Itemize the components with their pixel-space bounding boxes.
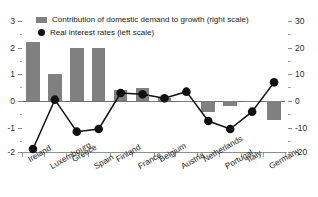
bar-italy [245,101,259,102]
data-point-greece [72,127,81,136]
bar-germany [267,101,281,120]
right-tick-10 [288,74,292,75]
circle-marker-icon [38,29,45,36]
data-point-italy [248,107,257,116]
left-minor-tick-2p5 [20,34,23,35]
x-axis-label-ireland: Ireland [27,144,53,164]
bar-ireland [26,42,40,101]
right-tick-20 [288,48,292,49]
right-tick-30 [288,21,292,22]
right-minor-tick-25 [288,34,291,35]
right-tick-label-20: 20 [295,44,315,53]
x-tick-0 [22,153,23,157]
left-tick-label-0: 0 [1,97,15,106]
left-minor-tick-m1p5 [20,141,23,142]
bar-austria [180,101,194,102]
data-point-spain [94,125,103,134]
right-tick-m10 [288,128,292,129]
data-point-austria [182,87,191,96]
chart-legend: Contribution of domestic demand to growt… [36,14,249,40]
bar-france [136,88,150,101]
bar-swatch-icon [36,17,47,23]
left-minor-tick-m0p5 [20,114,23,115]
bar-greece [70,48,84,101]
right-tick-label-0: 0 [295,97,315,106]
right-minor-tick-15 [288,61,291,62]
bar-luxembourg [48,74,62,101]
left-tick-2 [18,48,22,49]
left-tick-3 [18,21,22,22]
right-tick-label-10: 10 [295,70,315,79]
data-point-portugal [226,125,235,134]
x-axis-label-germany: Germany [268,147,301,171]
legend-label-real-interest-rates: Real interest rates (left scale) [50,29,154,37]
bar-belgium [158,98,172,101]
legend-label-domestic-demand: Contribution of domestic demand to growt… [52,16,249,24]
left-tick-label-3: 3 [1,17,15,26]
bar-portugal [223,101,237,106]
right-minor-tick-m5 [288,114,291,115]
data-point-netherlands [204,117,213,126]
legend-item-real-interest-rates: Real interest rates (left scale) [36,27,249,38]
left-tick-label-1: 1 [1,70,15,79]
data-point-germany [270,78,279,87]
left-minor-tick-0p5 [20,87,23,88]
legend-item-domestic-demand: Contribution of domestic demand to growt… [36,14,249,25]
right-minor-tick-m15 [288,141,291,142]
right-tick-label-m10: -10 [295,124,315,133]
left-tick-label-2: 2 [1,44,15,53]
left-tick-label-m2: -2 [1,148,15,157]
right-tick-0 [288,101,292,102]
bar-finland [114,90,128,101]
left-tick-1 [18,74,22,75]
left-tick-m1 [18,128,22,129]
bar-spain [92,48,106,101]
right-tick-label-30: 30 [295,17,315,26]
bar-netherlands [201,101,215,112]
x-axis-label-spain: Spain [93,154,115,172]
chart-container: Contribution of domestic demand to growt… [0,0,318,197]
left-tick-label-m1: -1 [1,124,15,133]
right-minor-tick-5 [288,87,291,88]
left-minor-tick-1p5 [20,61,23,62]
